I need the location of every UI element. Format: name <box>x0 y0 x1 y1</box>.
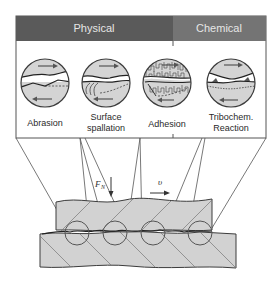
label-spallation-line1: Surface <box>90 112 121 122</box>
connector-line <box>212 138 266 228</box>
header-chemical-label: Chemical <box>196 22 242 34</box>
lower-body <box>40 231 236 272</box>
label-tribochem-line2: Reaction <box>213 123 249 133</box>
velocity-indicator: υ <box>150 177 170 196</box>
label-tribochem-line1: Tribochem. <box>209 112 254 122</box>
label-abrasion: Abrasion <box>27 118 63 128</box>
normal-force-subscript: N <box>100 184 106 190</box>
mechanism-adhesion-icon <box>143 59 191 107</box>
label-adhesion: Adhesion <box>148 119 186 129</box>
wear-mechanisms-diagram: Physical Chemical <box>0 0 278 281</box>
header-physical-label: Physical <box>74 22 115 34</box>
label-spallation-line2: spallation <box>87 123 125 133</box>
velocity-symbol: υ <box>158 177 162 187</box>
normal-force-symbol: F <box>94 179 101 189</box>
down-arrow-head-icon <box>109 191 114 197</box>
right-arrow-head-icon <box>164 191 170 196</box>
upper-body <box>56 197 215 232</box>
